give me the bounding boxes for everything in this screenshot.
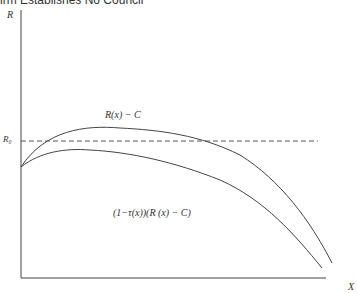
upper-curve <box>21 127 332 263</box>
x-axis-label: X <box>348 281 354 292</box>
r0-label: R₀ <box>3 134 12 144</box>
y-axis-label: R <box>7 9 13 20</box>
diagram-canvas <box>0 0 357 293</box>
upper-curve-label: R(x) − C <box>105 109 141 120</box>
lower-curve-label: (1−τ(x))(R (x) − C) <box>113 207 191 218</box>
